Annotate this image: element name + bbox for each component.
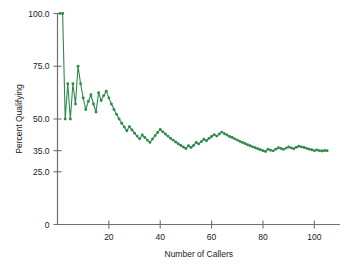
data-point <box>110 103 113 106</box>
y-axis-tick-labels: 025.035.050.075.0100.0 <box>28 9 50 230</box>
data-point <box>105 90 108 93</box>
data-point <box>161 130 164 133</box>
data-point <box>274 148 277 151</box>
data-point <box>133 132 136 135</box>
y-tick-label: 35.0 <box>33 146 50 156</box>
data-point <box>131 129 134 132</box>
data-point <box>102 94 105 97</box>
data-point <box>256 147 259 150</box>
data-point <box>166 135 169 138</box>
data-point <box>69 118 72 121</box>
data-point <box>231 136 234 139</box>
data-point <box>113 108 116 111</box>
data-point <box>66 82 69 85</box>
data-point <box>177 142 180 145</box>
data-point <box>179 144 182 147</box>
data-point <box>118 118 121 121</box>
data-point <box>215 135 218 138</box>
data-point <box>59 12 62 15</box>
data-point <box>143 136 146 139</box>
data-point <box>308 148 311 151</box>
data-point <box>213 133 216 136</box>
data-point <box>210 135 213 138</box>
data-point <box>146 139 149 142</box>
data-point <box>184 147 187 150</box>
data-point <box>138 137 141 140</box>
data-point <box>84 108 87 111</box>
data-point <box>279 147 282 150</box>
data-point <box>259 148 262 151</box>
data-point <box>87 100 90 103</box>
data-point <box>315 149 318 152</box>
data-point <box>292 147 295 150</box>
data-point <box>136 135 139 138</box>
data-point <box>100 99 103 102</box>
data-point <box>205 139 208 142</box>
data-point <box>92 103 95 106</box>
data-point <box>300 145 303 148</box>
data-point <box>202 138 205 141</box>
data-point <box>174 141 177 144</box>
percent-qualifying-line-chart: 025.035.050.075.0100.0 20406080100 Perce… <box>0 0 352 280</box>
data-point <box>313 149 316 152</box>
data-point <box>125 129 128 132</box>
data-point <box>228 135 231 138</box>
x-tick-label: 100 <box>307 232 321 242</box>
data-point <box>182 146 185 149</box>
data-point <box>61 12 64 15</box>
data-point <box>218 133 221 136</box>
data-point <box>123 126 126 129</box>
data-point <box>195 141 198 144</box>
data-point <box>321 150 324 153</box>
data-point <box>269 149 272 152</box>
data-point <box>244 142 247 145</box>
data-point <box>169 137 172 140</box>
data-point <box>190 146 193 149</box>
data-point <box>249 144 252 147</box>
y-tick-label: 75.0 <box>33 61 50 71</box>
data-point <box>290 146 293 149</box>
data-point <box>89 93 92 96</box>
data-point <box>154 134 157 137</box>
data-point <box>172 139 175 142</box>
data-point <box>287 146 290 149</box>
data-point <box>107 96 110 99</box>
data-point <box>297 145 300 148</box>
data-point <box>233 137 236 140</box>
data-point <box>156 131 159 134</box>
data-series-markers <box>59 12 329 153</box>
data-point <box>226 134 229 137</box>
data-point <box>326 149 329 152</box>
x-axis-title: Number of Callers <box>165 249 234 259</box>
data-point <box>295 146 298 149</box>
data-point <box>267 148 270 151</box>
data-point <box>318 149 321 152</box>
data-point <box>220 131 223 134</box>
data-point <box>77 65 80 68</box>
data-point <box>115 113 118 116</box>
data-point <box>79 82 82 85</box>
x-tick-label: 60 <box>207 232 217 242</box>
data-point <box>262 149 265 152</box>
data-point <box>254 146 257 149</box>
data-point <box>236 139 239 142</box>
data-point <box>95 111 98 114</box>
data-point <box>82 96 85 99</box>
data-point <box>159 128 162 131</box>
data-point <box>187 144 190 147</box>
data-point <box>282 148 285 151</box>
y-tick-label: 0 <box>45 220 50 230</box>
y-axis-title: Percent Qualifying <box>14 84 24 154</box>
data-point <box>264 150 267 153</box>
x-tick-label: 40 <box>155 232 165 242</box>
data-point <box>149 141 152 144</box>
data-point <box>151 138 154 141</box>
data-point <box>141 134 144 137</box>
data-point <box>223 132 226 135</box>
data-point <box>64 118 67 121</box>
x-tick-label: 80 <box>258 232 268 242</box>
data-series-line <box>60 14 327 152</box>
data-point <box>97 91 100 94</box>
data-point <box>74 103 77 106</box>
data-point <box>251 145 254 148</box>
